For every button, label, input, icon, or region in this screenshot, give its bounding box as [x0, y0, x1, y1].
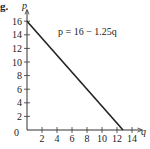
x-tick-label: 4 [55, 133, 60, 144]
x-tick-label: 2 [40, 133, 45, 144]
y-axis-label: p [21, 0, 27, 11]
equation-annotation: p = 16 − 1.25q [58, 26, 117, 37]
y-tick-label: 12 [12, 43, 22, 54]
y-tick-label: 6 [17, 84, 22, 95]
x-tick-label: 14 [127, 133, 137, 144]
x-axis-label: q [141, 126, 146, 137]
demand-chart: g. 2468101214162468101214 p q 0 p = 16 −… [0, 0, 150, 149]
x-tick-label: 12 [112, 133, 122, 144]
x-tick-label: 6 [70, 133, 75, 144]
y-tick-label: 10 [12, 57, 22, 68]
y-tick-label: 8 [17, 70, 22, 81]
x-tick-label: 8 [85, 133, 90, 144]
figure-label: g. [0, 0, 9, 12]
y-tick-label: 4 [17, 97, 22, 108]
data-line [27, 21, 123, 130]
y-tick-label: 2 [17, 111, 22, 122]
x-tick-label: 10 [97, 133, 107, 144]
y-tick-label: 14 [12, 29, 22, 40]
origin-label: 0 [14, 127, 19, 138]
y-tick-label: 16 [12, 16, 22, 27]
